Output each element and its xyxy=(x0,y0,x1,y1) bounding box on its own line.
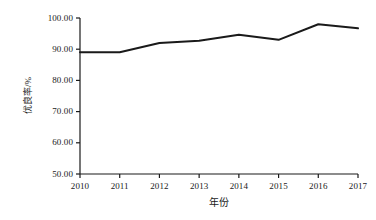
x-axis-title: 年份 xyxy=(169,198,269,208)
x-axis-tick-label: 2016 xyxy=(298,182,338,191)
y-axis-tick-label: 90.00 xyxy=(52,45,73,54)
x-axis-tick-label: 2011 xyxy=(100,182,140,191)
x-axis-ticks xyxy=(80,174,358,178)
data-series-group xyxy=(80,24,358,52)
x-axis-tick-label: 2013 xyxy=(179,182,219,191)
y-axis-tick-label: 100.00 xyxy=(48,14,73,23)
x-axis-tick-label: 2017 xyxy=(338,182,376,191)
y-axis-tick-label: 60.00 xyxy=(52,138,73,147)
x-axis-tick-label: 2010 xyxy=(60,182,100,191)
data-series-line xyxy=(80,24,358,52)
x-axis-tick-label: 2012 xyxy=(139,182,179,191)
y-axis-tick-label: 70.00 xyxy=(52,107,73,116)
line-chart-figure: 50.0060.0070.0080.0090.00100.00 20102011… xyxy=(0,0,376,220)
chart-axes xyxy=(80,18,358,174)
x-axis-tick-label: 2014 xyxy=(219,182,259,191)
x-axis-tick-label: 2015 xyxy=(259,182,299,191)
y-axis-tick-label: 80.00 xyxy=(52,76,73,85)
y-axis-title: 优良率/% xyxy=(24,68,33,124)
y-axis-tick-label: 50.00 xyxy=(52,170,73,179)
